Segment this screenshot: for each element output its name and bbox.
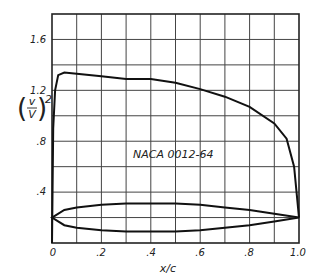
x-axis-label: x/c	[159, 262, 176, 275]
ylabel-denominator: V	[28, 108, 37, 121]
airfoil-annotation: NACA 0012-64	[133, 148, 213, 161]
x-tick: .2	[96, 247, 106, 258]
y-tick: 1.6	[30, 34, 46, 45]
ylabel-numerator: v	[29, 95, 36, 108]
chart: 1.6 1.2 .8 .4 0 .2 .4 .6 .8 1.0 x/c ( v …	[0, 0, 319, 280]
x-tick: 1.0	[290, 247, 306, 258]
x-tick: .6	[195, 247, 205, 258]
x-tick: 0	[50, 247, 56, 258]
x-tick: .4	[146, 247, 156, 258]
y-tick: .4	[36, 186, 46, 197]
x-tick: .8	[244, 247, 254, 258]
ylabel-exponent: 2	[45, 93, 52, 106]
y-tick: .8	[36, 136, 46, 147]
grid	[52, 14, 299, 243]
y-axis-label: ( v V ) 2	[17, 93, 52, 123]
x-tick-labels: 0 .2 .4 .6 .8 1.0	[50, 247, 306, 258]
paren-left: (	[17, 93, 27, 123]
